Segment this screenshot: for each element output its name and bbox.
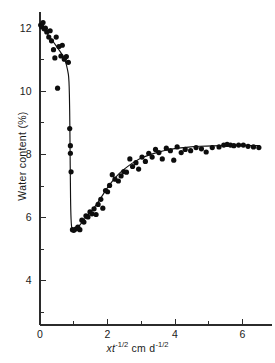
data-point [251, 144, 256, 149]
data-point [116, 178, 121, 183]
figure-container: 4681012 0246 Water content (%) xt-1/2 cm… [0, 0, 275, 363]
data-point [91, 206, 96, 211]
data-point [64, 54, 69, 59]
data-point [124, 170, 129, 175]
y-axis-tick-labels: 4681012 [20, 22, 32, 287]
x-axis-exponent-2: -1/2 [155, 340, 168, 349]
data-point [77, 227, 82, 232]
data-point [231, 143, 236, 148]
y-tick-label: 12 [20, 22, 32, 34]
data-point [68, 143, 73, 148]
y-tick-label: 10 [20, 85, 32, 97]
data-point [105, 189, 110, 194]
data-point [107, 183, 112, 188]
data-point [67, 126, 72, 131]
data-point [171, 158, 176, 163]
data-point [66, 60, 71, 65]
data-point [236, 142, 241, 147]
data-point [52, 55, 57, 60]
water-content-scatter-plot: 4681012 0246 [0, 0, 275, 363]
x-axis-ticks [40, 319, 243, 325]
data-point [139, 154, 144, 159]
data-point [40, 20, 45, 25]
y-tick-label: 8 [26, 148, 32, 160]
data-point [49, 38, 54, 43]
axes-group [40, 12, 272, 325]
data-point [156, 150, 161, 155]
data-point [199, 146, 204, 151]
data-points-group [38, 20, 261, 233]
data-point [100, 206, 105, 211]
data-point [136, 166, 141, 171]
x-tick-label: 0 [37, 328, 43, 340]
data-point [85, 214, 90, 219]
data-point [241, 142, 246, 147]
data-point [81, 219, 86, 224]
data-point [51, 47, 56, 52]
data-point [110, 172, 115, 177]
data-point [93, 212, 98, 217]
data-point [256, 145, 261, 150]
data-point [118, 173, 123, 178]
data-point [216, 144, 221, 149]
data-point [96, 202, 101, 207]
data-point [193, 145, 198, 150]
data-point [127, 156, 132, 161]
x-tick-label: 2 [104, 328, 110, 340]
data-point [160, 156, 165, 161]
data-point [150, 154, 155, 159]
x-axis-tick-labels: 0246 [37, 328, 246, 340]
data-point [68, 151, 73, 156]
data-point [54, 34, 59, 39]
data-point [68, 169, 73, 174]
data-point [143, 159, 148, 164]
data-point [175, 144, 180, 149]
fitted-curve [41, 26, 260, 231]
x-axis-unit-cm: cm [132, 342, 147, 354]
data-point [60, 43, 65, 48]
x-axis-title: xt-1/2 cm d-1/2 [0, 340, 275, 354]
data-point [188, 148, 193, 153]
y-axis-ticks [40, 28, 46, 312]
data-point [48, 28, 53, 33]
data-point [183, 147, 188, 152]
x-axis-exponent-1: -1/2 [115, 340, 128, 349]
x-tick-label: 6 [240, 328, 246, 340]
data-point [55, 86, 60, 91]
data-point [98, 197, 103, 202]
y-tick-label: 4 [26, 274, 32, 286]
data-point [168, 148, 173, 153]
y-tick-label: 6 [26, 211, 32, 223]
data-point [179, 150, 184, 155]
data-point [245, 144, 250, 149]
data-point [210, 145, 215, 150]
data-point [133, 160, 138, 165]
x-tick-label: 4 [172, 328, 178, 340]
data-point [204, 149, 209, 154]
